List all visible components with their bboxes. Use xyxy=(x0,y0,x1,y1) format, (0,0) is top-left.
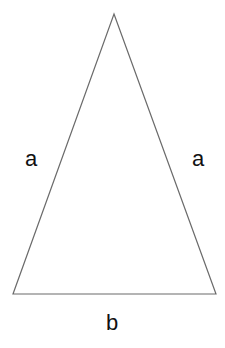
triangle-figure-canvas: a a b xyxy=(0,0,225,348)
isosceles-triangle-drawing xyxy=(0,0,225,348)
triangle-outline xyxy=(13,14,216,294)
side-label-base-b: b xyxy=(106,312,118,334)
side-label-right-a: a xyxy=(192,148,204,170)
side-label-left-a: a xyxy=(25,148,37,170)
